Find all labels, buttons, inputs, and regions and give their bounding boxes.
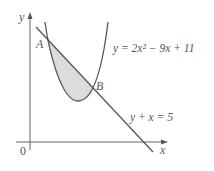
y-axis-arrow-icon <box>28 12 33 19</box>
origin-label: 0 <box>20 144 26 158</box>
x-axis-label: x <box>159 143 166 157</box>
line-equation: y + x = 5 <box>129 111 173 124</box>
graph: y x 0 A B y = 2x² − 9x + 11 y + x = 5 <box>0 0 214 171</box>
shaded-region <box>47 38 94 101</box>
parabola-equation: y = 2x² − 9x + 11 <box>112 42 194 55</box>
point-a-label: A <box>35 37 44 51</box>
point-b-label: B <box>96 79 104 93</box>
y-axis-label: y <box>18 10 25 24</box>
